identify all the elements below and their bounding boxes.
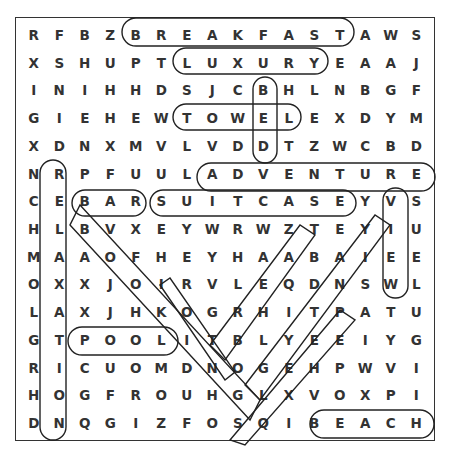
grid-cell[interactable]: G: [98, 409, 124, 437]
grid-cell[interactable]: A: [47, 298, 73, 326]
grid-cell[interactable]: J: [98, 298, 124, 326]
grid-cell[interactable]: R: [47, 160, 73, 188]
grid-cell[interactable]: E: [174, 21, 200, 49]
grid-cell[interactable]: C: [225, 76, 251, 104]
grid-cell[interactable]: X: [98, 132, 124, 160]
grid-cell[interactable]: P: [72, 160, 98, 188]
grid-cell[interactable]: H: [200, 382, 226, 410]
grid-cell[interactable]: R: [378, 160, 404, 188]
grid-cell[interactable]: L: [302, 76, 328, 104]
grid-cell[interactable]: U: [149, 160, 175, 188]
grid-cell[interactable]: R: [21, 354, 47, 382]
grid-cell[interactable]: W: [200, 215, 226, 243]
grid-cell[interactable]: P: [72, 326, 98, 354]
grid-cell[interactable]: E: [276, 354, 302, 382]
grid-cell[interactable]: W: [149, 104, 175, 132]
grid-cell[interactable]: Z: [98, 21, 124, 49]
grid-cell[interactable]: L: [149, 326, 175, 354]
grid-cell[interactable]: B: [72, 187, 98, 215]
grid-cell[interactable]: U: [200, 49, 226, 77]
grid-cell[interactable]: D: [302, 271, 328, 299]
grid-cell[interactable]: X: [72, 271, 98, 299]
grid-cell[interactable]: A: [200, 21, 226, 49]
grid-cell[interactable]: N: [302, 160, 328, 188]
grid-cell[interactable]: B: [302, 243, 328, 271]
grid-cell[interactable]: D: [149, 76, 175, 104]
grid-cell[interactable]: H: [21, 215, 47, 243]
grid-cell[interactable]: B: [251, 76, 277, 104]
grid-cell[interactable]: J: [404, 49, 430, 77]
grid-cell[interactable]: O: [123, 326, 149, 354]
grid-cell[interactable]: X: [47, 271, 73, 299]
grid-cell[interactable]: Y: [353, 187, 379, 215]
grid-cell[interactable]: V: [251, 160, 277, 188]
grid-cell[interactable]: I: [174, 326, 200, 354]
grid-cell[interactable]: E: [174, 243, 200, 271]
grid-cell[interactable]: I: [47, 354, 73, 382]
grid-cell[interactable]: T: [378, 298, 404, 326]
grid-cell[interactable]: A: [353, 49, 379, 77]
grid-cell[interactable]: Z: [276, 215, 302, 243]
grid-cell[interactable]: O: [225, 354, 251, 382]
grid-cell[interactable]: F: [98, 160, 124, 188]
grid-cell[interactable]: I: [123, 409, 149, 437]
grid-cell[interactable]: I: [378, 215, 404, 243]
grid-cell[interactable]: U: [404, 215, 430, 243]
grid-cell[interactable]: Y: [378, 104, 404, 132]
grid-cell[interactable]: Y: [174, 215, 200, 243]
grid-cell[interactable]: D: [174, 354, 200, 382]
grid-cell[interactable]: G: [21, 326, 47, 354]
grid-cell[interactable]: A: [353, 21, 379, 49]
grid-cell[interactable]: Y: [302, 49, 328, 77]
grid-cell[interactable]: K: [149, 298, 175, 326]
grid-cell[interactable]: J: [98, 271, 124, 299]
grid-cell[interactable]: L: [251, 382, 277, 410]
grid-cell[interactable]: H: [72, 49, 98, 77]
grid-cell[interactable]: E: [302, 104, 328, 132]
grid-cell[interactable]: Z: [149, 409, 175, 437]
grid-cell[interactable]: N: [200, 354, 226, 382]
grid-cell[interactable]: L: [21, 298, 47, 326]
grid-cell[interactable]: H: [21, 382, 47, 410]
grid-cell[interactable]: N: [72, 132, 98, 160]
grid-cell[interactable]: M: [404, 104, 430, 132]
grid-cell[interactable]: X: [21, 49, 47, 77]
grid-cell[interactable]: K: [225, 21, 251, 49]
grid-cell[interactable]: Q: [276, 271, 302, 299]
grid-cell[interactable]: J: [200, 76, 226, 104]
grid-cell[interactable]: C: [21, 187, 47, 215]
grid-cell[interactable]: I: [353, 326, 379, 354]
grid-cell[interactable]: R: [225, 215, 251, 243]
grid-cell[interactable]: V: [200, 271, 226, 299]
grid-cell[interactable]: L: [47, 215, 73, 243]
grid-cell[interactable]: H: [123, 76, 149, 104]
grid-cell[interactable]: A: [47, 243, 73, 271]
grid-cell[interactable]: V: [302, 382, 328, 410]
grid-cell[interactable]: A: [200, 160, 226, 188]
grid-cell[interactable]: O: [98, 243, 124, 271]
grid-cell[interactable]: A: [72, 243, 98, 271]
grid-cell[interactable]: V: [149, 132, 175, 160]
grid-cell[interactable]: D: [251, 132, 277, 160]
grid-cell[interactable]: H: [251, 298, 277, 326]
grid-cell[interactable]: Q: [72, 409, 98, 437]
grid-cell[interactable]: R: [123, 382, 149, 410]
grid-cell[interactable]: G: [404, 326, 430, 354]
grid-cell[interactable]: I: [353, 243, 379, 271]
grid-cell[interactable]: R: [225, 298, 251, 326]
grid-cell[interactable]: E: [123, 104, 149, 132]
grid-cell[interactable]: O: [47, 382, 73, 410]
grid-cell[interactable]: I: [200, 187, 226, 215]
grid-cell[interactable]: E: [378, 243, 404, 271]
grid-cell[interactable]: R: [21, 21, 47, 49]
grid-cell[interactable]: D: [404, 132, 430, 160]
grid-cell[interactable]: A: [251, 243, 277, 271]
grid-cell[interactable]: W: [225, 104, 251, 132]
grid-cell[interactable]: E: [404, 160, 430, 188]
grid-cell[interactable]: L: [404, 271, 430, 299]
grid-cell[interactable]: H: [404, 409, 430, 437]
grid-cell[interactable]: E: [149, 215, 175, 243]
grid-cell[interactable]: W: [327, 132, 353, 160]
grid-cell[interactable]: D: [353, 104, 379, 132]
grid-cell[interactable]: L: [225, 271, 251, 299]
